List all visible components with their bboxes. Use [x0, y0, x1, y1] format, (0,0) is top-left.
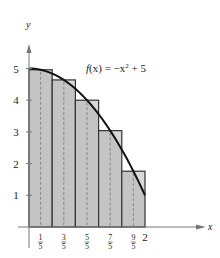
y-tick-label: 1	[13, 189, 19, 201]
x-tick-numerator: 9	[131, 233, 135, 242]
x-tick-numerator: 1	[39, 233, 43, 242]
x-tick-label-end: 2	[142, 231, 148, 243]
x-tick-numerator: 3	[62, 233, 66, 242]
function-label: f(x) = −x2 + 5	[86, 62, 147, 75]
x-tick-denominator: 5	[85, 242, 89, 251]
function-label-arg: (x) = −x	[89, 62, 126, 75]
y-tick-label: 5	[13, 63, 19, 75]
x-tick-denominator: 5	[108, 242, 112, 251]
x-axis-arrow-icon	[196, 225, 206, 230]
x-tick-denominator: 5	[62, 242, 66, 251]
y-axis-label: y	[25, 19, 31, 30]
function-label-suffix: + 5	[129, 62, 147, 74]
y-tick-label: 2	[13, 158, 19, 170]
x-ticks: 15355575952	[38, 231, 148, 251]
x-tick-denominator: 5	[131, 242, 135, 251]
riemann-sum-chart: y x 12345 15355575952 f(x) = −x2 + 5	[0, 0, 220, 258]
x-tick-denominator: 5	[39, 242, 43, 251]
y-tick-label: 3	[13, 126, 19, 138]
x-axis-label: x	[207, 221, 213, 232]
y-axis-arrow-icon	[27, 44, 32, 53]
x-tick-numerator: 7	[108, 233, 112, 242]
y-tick-label: 4	[13, 94, 19, 106]
x-tick-numerator: 5	[85, 233, 89, 242]
